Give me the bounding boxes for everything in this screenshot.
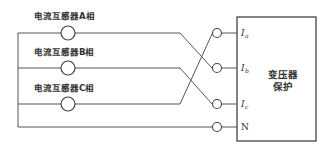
terminal-ic-icon xyxy=(213,100,222,109)
ct-c-label: 电流互感器C相 xyxy=(34,83,94,93)
phase-c-branch: 电流互感器C相 xyxy=(18,34,212,111)
phase-b-branch: 电流互感器B相 xyxy=(18,47,212,104)
ct-coil-c-icon xyxy=(61,97,75,111)
terminal-n-icon xyxy=(213,123,222,132)
terminal-ib-icon xyxy=(213,64,222,73)
ct-a-label: 电流互感器A相 xyxy=(34,11,95,21)
device-label-line2: 保护 xyxy=(272,81,293,92)
ct-coil-b-icon xyxy=(61,61,75,75)
terminal-ia-icon xyxy=(213,29,222,38)
terminal-n-label: N xyxy=(241,122,249,132)
ct-coil-a-icon xyxy=(61,26,75,40)
phase-a-branch: 电流互感器A相 xyxy=(18,11,212,68)
device-label-line1: 变压器 xyxy=(268,69,298,80)
ct-b-label: 电流互感器B相 xyxy=(34,47,94,57)
ct-wiring-diagram: 电流互感器A相 电流互感器B相 电流互感器C相 Ia Ib Ic N 变压器 保… xyxy=(0,0,330,152)
